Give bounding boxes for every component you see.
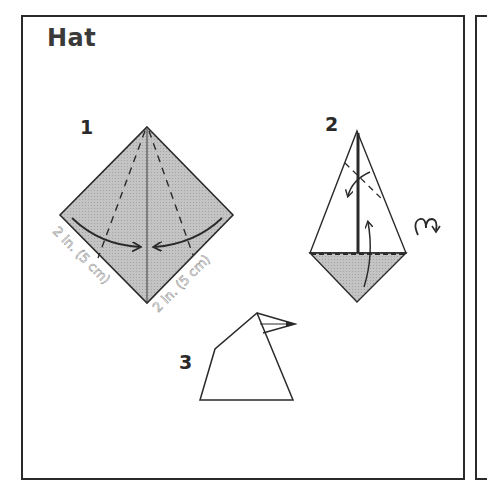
step-3: 3 — [179, 313, 296, 400]
step-2: 2 — [310, 113, 440, 302]
hat-tip-point — [286, 321, 296, 327]
step-1: 1 2 in. (5 cm) 2 in. (5 cm) — [50, 116, 233, 315]
turn-over-icon — [415, 219, 440, 235]
step-number-1: 1 — [80, 116, 93, 138]
finished-hat — [200, 313, 293, 400]
step-number-2: 2 — [325, 113, 338, 135]
step-2-bottom-flap — [310, 253, 406, 302]
step-number-3: 3 — [179, 351, 192, 373]
